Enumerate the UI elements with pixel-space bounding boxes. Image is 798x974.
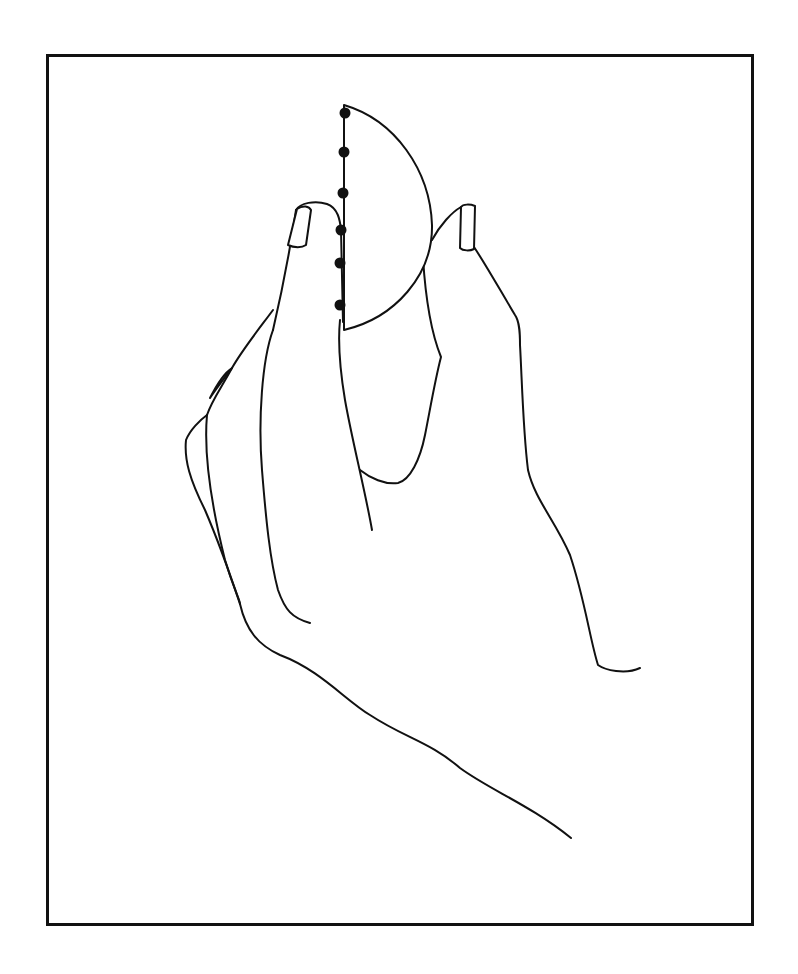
pinky-line: [260, 330, 310, 623]
hand-holding-semicircle-illustration: [0, 0, 798, 974]
index-finger-side-line: [339, 320, 372, 530]
edge-dot-icon: [339, 147, 350, 158]
middle-finger-line: [207, 310, 273, 415]
edge-dot-icon: [340, 108, 351, 119]
thumb-outer-line: [474, 247, 640, 671]
edge-dot-icon: [335, 300, 346, 311]
ring-finger-outer-line: [186, 415, 240, 604]
middle-knuckle-fold-line: [210, 368, 232, 398]
semicircle-disc: [344, 105, 432, 330]
thumbnail-icon: [460, 205, 475, 251]
index-fingernail-icon: [288, 206, 311, 247]
ring-finger-inner-line: [206, 415, 240, 604]
palm-bottom-line: [240, 604, 571, 838]
edge-dot-icon: [338, 188, 349, 199]
edge-dot-icon: [335, 258, 346, 269]
edge-dot-icon: [336, 225, 347, 236]
thumb-tip-line: [432, 207, 461, 240]
